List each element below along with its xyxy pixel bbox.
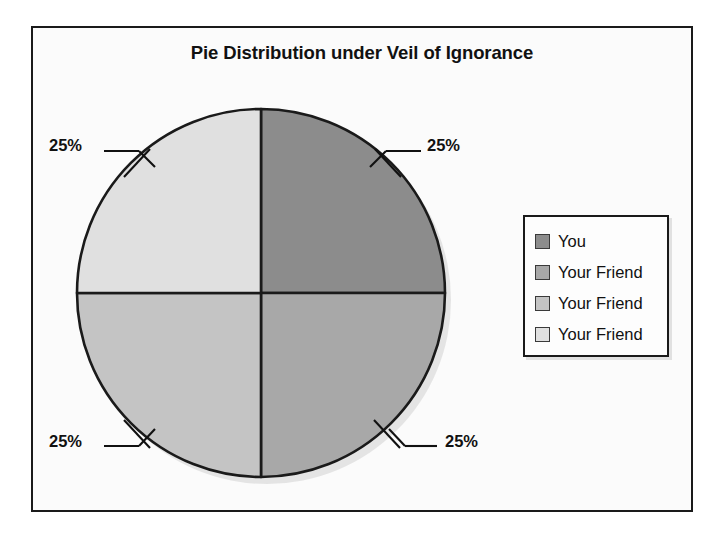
pie-label-top-right: 25% [427,136,460,155]
legend-item[interactable]: Your Friend [535,288,667,319]
legend-swatch-icon [535,296,550,311]
pie-slice-you[interactable] [261,109,445,293]
pie-label-bottom-left: 25% [49,432,82,451]
pie-slice-friend-1[interactable] [261,293,445,477]
legend-item-label: Your Friend [558,295,643,312]
pie-label-bottom-right: 25% [445,432,478,451]
chart-frame: Pie Distribution under Veil of Ignorance [31,26,693,512]
legend-swatch-icon [535,265,550,280]
legend-item[interactable]: You [535,226,667,257]
legend-swatch-icon [535,327,550,342]
pie-label-top-left: 25% [49,136,82,155]
pie-slice-friend-2[interactable] [77,293,261,477]
chart-legend: You Your Friend Your Friend Your Friend [523,215,669,357]
legend-item-label: Your Friend [558,326,643,343]
legend-swatch-icon [535,234,550,249]
pie-slice-friend-3[interactable] [77,109,261,293]
legend-item-label: You [558,233,586,250]
legend-item[interactable]: Your Friend [535,257,667,288]
legend-item[interactable]: Your Friend [535,319,667,350]
legend-item-label: Your Friend [558,264,643,281]
